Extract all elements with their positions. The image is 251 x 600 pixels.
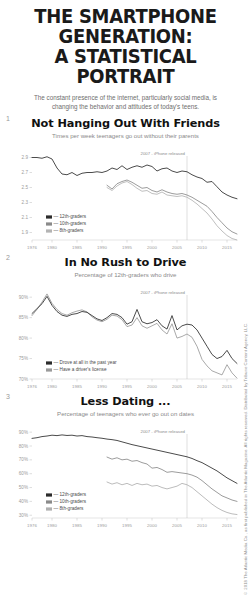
legend-swatch <box>46 500 52 503</box>
x-tick-label: 1976 <box>27 522 37 527</box>
x-tick-label: 2010 <box>197 244 207 249</box>
chart-header: Less Dating ...Percentage of teenagers w… <box>6 393 245 417</box>
chart-header: Not Hanging Out With FriendsTimes per we… <box>6 115 245 139</box>
x-tick-label: 1976 <box>27 383 37 388</box>
line-chart-2: 90%85%80%75%70%1976198019851990199520002… <box>6 281 245 393</box>
legend-swatch <box>46 507 52 510</box>
charts-container: 1Not Hanging Out With FriendsTimes per w… <box>0 115 251 532</box>
y-tick-label: 2.3 <box>22 200 29 205</box>
x-tick-label: 1995 <box>122 522 132 527</box>
legend-swatch <box>46 361 52 364</box>
chart-title: Not Hanging Out With Friends <box>6 117 245 130</box>
legend-label: — 10th-graders <box>54 499 87 504</box>
y-tick-label: 80% <box>19 335 28 340</box>
legend-label: — 10th-graders <box>54 221 87 226</box>
chart-legend: — Drove at all in the past year— Have a … <box>46 360 117 372</box>
chart-section-3: 3Less Dating ...Percentage of teenagers … <box>0 393 251 532</box>
chart-plot-area: 90%80%70%60%50%40%30%1976198019851990199… <box>6 420 245 532</box>
legend-swatch <box>46 215 52 218</box>
series-line <box>32 296 237 363</box>
y-tick-label: 75% <box>19 356 28 361</box>
section-number: 1 <box>6 115 10 122</box>
section-number: 3 <box>6 393 10 400</box>
y-tick-label: 30% <box>19 513 28 518</box>
y-tick-label: 2.7 <box>22 170 29 175</box>
page-title: THE SMARTPHONE GENERATION: A STATISTICAL… <box>17 7 233 87</box>
line-chart-1: 2.92.72.52.32.11.91976198019851990199520… <box>6 142 245 254</box>
x-tick-label: 1995 <box>122 244 132 249</box>
iphone-release-label: 2007 - iPhone released <box>141 428 186 433</box>
y-tick-label: 90% <box>19 295 28 300</box>
legend-swatch <box>46 368 52 371</box>
series-line <box>107 181 237 240</box>
y-tick-label: 70% <box>19 457 28 462</box>
x-tick-label: 1980 <box>47 383 57 388</box>
x-tick-label: 1985 <box>72 522 82 527</box>
series-line <box>32 157 237 199</box>
section-number: 2 <box>6 254 10 261</box>
y-tick-label: 40% <box>19 499 28 504</box>
chart-subtitle: Percentage of 12th-graders who drive <box>6 271 245 278</box>
y-tick-label: 80% <box>19 443 28 448</box>
y-tick-label: 2.9 <box>22 155 29 160</box>
chart-plot-area: 2.92.72.52.32.11.91976198019851990199520… <box>6 142 245 254</box>
chart-plot-area: 90%85%80%75%70%1976198019851990199520002… <box>6 281 245 393</box>
y-tick-label: 70% <box>19 376 28 381</box>
line-chart-3: 90%80%70%60%50%40%30%1976198019851990199… <box>6 420 245 532</box>
x-tick-label: 1995 <box>122 383 132 388</box>
x-tick-label: 2000 <box>147 522 157 527</box>
y-tick-label: 90% <box>19 430 28 435</box>
x-tick-label: 1976 <box>27 244 37 249</box>
series-line <box>107 482 237 515</box>
x-tick-label: 2000 <box>147 383 157 388</box>
x-tick-label: 2015 <box>222 244 232 249</box>
legend-swatch <box>46 493 52 496</box>
infographic-page: THE SMARTPHONE GENERATION: A STATISTICAL… <box>0 0 251 600</box>
x-tick-label: 1990 <box>97 244 107 249</box>
copyright-notice: © 2018 The Atlantic Media Co., as first … <box>241 176 250 596</box>
x-tick-label: 1980 <box>47 244 57 249</box>
x-tick-label: 2010 <box>197 522 207 527</box>
x-tick-label: 2000 <box>147 244 157 249</box>
legend-label: — 12th-graders <box>54 492 87 497</box>
chart-section-2: 2In No Rush to DrivePercentage of 12th-g… <box>0 254 251 393</box>
iphone-release-label: 2007 - iPhone released <box>141 150 186 155</box>
legend-label: — 8th-graders <box>54 506 85 511</box>
series-line <box>107 457 237 501</box>
chart-title: Less Dating ... <box>6 395 245 408</box>
chart-legend: — 12th-graders— 10th-graders— 8th-grader… <box>46 492 87 511</box>
page-subtitle: The constant presence of the internet, p… <box>8 93 243 111</box>
legend-label: — Drove at all in the past year <box>54 360 117 365</box>
x-tick-label: 2005 <box>172 244 182 249</box>
chart-title: In No Rush to Drive <box>6 256 245 269</box>
y-tick-label: 50% <box>19 485 28 490</box>
x-tick-label: 1985 <box>72 244 82 249</box>
x-tick-label: 1990 <box>97 383 107 388</box>
y-tick-label: 2.1 <box>22 215 29 220</box>
legend-label: — Have a driver's license <box>54 367 107 372</box>
y-tick-label: 1.9 <box>22 230 29 235</box>
chart-subtitle: Percentage of teenagers who ever go out … <box>6 410 245 417</box>
series-line <box>32 435 237 483</box>
legend-label: — 12th-graders <box>54 214 87 219</box>
title-line-1: THE SMARTPHONE GENERATION: <box>34 5 216 48</box>
y-tick-label: 85% <box>19 315 28 320</box>
header: THE SMARTPHONE GENERATION: A STATISTICAL… <box>0 0 251 115</box>
x-tick-label: 2015 <box>222 383 232 388</box>
y-tick-label: 2.5 <box>22 185 29 190</box>
series-line <box>32 294 237 378</box>
legend-swatch <box>46 229 52 232</box>
x-tick-label: 1980 <box>47 522 57 527</box>
x-tick-label: 2010 <box>197 383 207 388</box>
legend-swatch <box>46 222 52 225</box>
chart-legend: — 12th-graders— 10th-graders— 8th-grader… <box>46 214 87 233</box>
x-tick-label: 2005 <box>172 522 182 527</box>
x-tick-label: 2005 <box>172 383 182 388</box>
x-tick-label: 2015 <box>222 522 232 527</box>
chart-section-1: 1Not Hanging Out With FriendsTimes per w… <box>0 115 251 254</box>
chart-subtitle: Times per week teenagers go out without … <box>6 132 245 139</box>
chart-header: In No Rush to DrivePercentage of 12th-gr… <box>6 254 245 278</box>
legend-label: — 8th-graders <box>54 228 85 233</box>
title-line-2: A STATISTICAL PORTRAIT <box>17 47 233 87</box>
x-tick-label: 1990 <box>97 522 107 527</box>
